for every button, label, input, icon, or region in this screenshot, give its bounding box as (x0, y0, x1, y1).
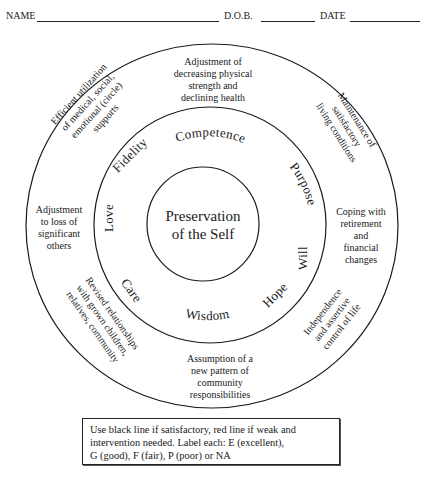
svg-text:financial: financial (344, 242, 379, 253)
svg-text:declining health: declining health (181, 92, 245, 103)
psychosocial-wheel: Preservation of the Self Competence Purp… (0, 0, 428, 483)
instructions-line-1: Use black line if satisfactory, red line… (90, 423, 333, 436)
svg-text:decreasing physical: decreasing physical (174, 68, 253, 79)
svg-text:Assumption of a: Assumption of a (187, 353, 254, 364)
svg-text:new pattern of: new pattern of (191, 365, 249, 376)
virtue-hope: Hope (259, 279, 290, 310)
instructions-box: Use black line if satisfactory, red line… (82, 418, 340, 465)
task-right: Coping with retirement and financial cha… (336, 206, 386, 265)
svg-text:others: others (47, 240, 72, 251)
middle-ring (94, 107, 326, 343)
task-lower-right: Independence and assertive control of li… (301, 286, 363, 352)
svg-text:Adjustment: Adjustment (36, 204, 83, 215)
virtue-competence: Competence (173, 124, 248, 146)
task-bottom: Assumption of a new pattern of community… (187, 353, 254, 400)
virtue-care: Care (118, 276, 145, 306)
svg-text:changes: changes (345, 254, 377, 265)
inner-circle (147, 167, 259, 281)
virtue-wisdom: Wisdom (184, 306, 230, 323)
svg-text:responsibilities: responsibilities (190, 389, 251, 400)
task-upper-right: Maintenance of satisfactory living condi… (314, 88, 380, 164)
center-line-1: Preservation (166, 208, 241, 224)
svg-text:Adjustment of: Adjustment of (184, 56, 242, 67)
virtue-purpose: Purpose (287, 159, 320, 206)
task-upper-left: Efficient utilization of medical, social… (48, 61, 135, 150)
instructions-line-3: G (good), F (fair), P (poor) or NA (90, 449, 333, 462)
center-line-2: of the Self (172, 226, 234, 242)
svg-text:Coping with: Coping with (336, 206, 386, 217)
task-left: Adjustment to loss of significant others (36, 204, 83, 251)
virtue-love: Love (101, 204, 116, 232)
instructions-line-2: intervention needed. Label each: E (exce… (90, 436, 333, 449)
svg-text:and: and (354, 230, 368, 241)
svg-text:to loss of: to loss of (41, 216, 78, 227)
svg-text:retirement: retirement (340, 218, 381, 229)
virtue-will: Will (295, 246, 310, 270)
svg-text:significant: significant (38, 228, 80, 239)
task-top: Adjustment of decreasing physical streng… (174, 56, 253, 103)
svg-text:strength and: strength and (188, 80, 237, 91)
svg-text:community: community (197, 377, 243, 388)
